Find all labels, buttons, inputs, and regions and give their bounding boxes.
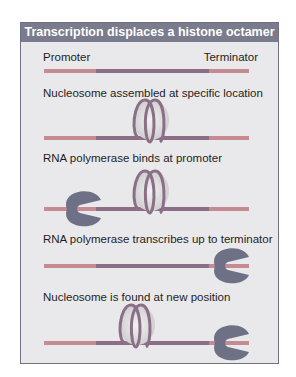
dna-with-nucleosome xyxy=(44,100,249,142)
nucleosome-icon xyxy=(133,100,169,142)
dna-polymerase-at-promoter xyxy=(44,171,249,226)
nucleosome-icon xyxy=(133,171,169,213)
dna-strand-reference xyxy=(44,69,249,73)
nucleosome-icon xyxy=(119,305,155,347)
diagram-graphics xyxy=(0,0,296,377)
dna-polymerase-at-terminator xyxy=(44,248,249,283)
dna-nucleosome-new-position xyxy=(44,305,249,360)
